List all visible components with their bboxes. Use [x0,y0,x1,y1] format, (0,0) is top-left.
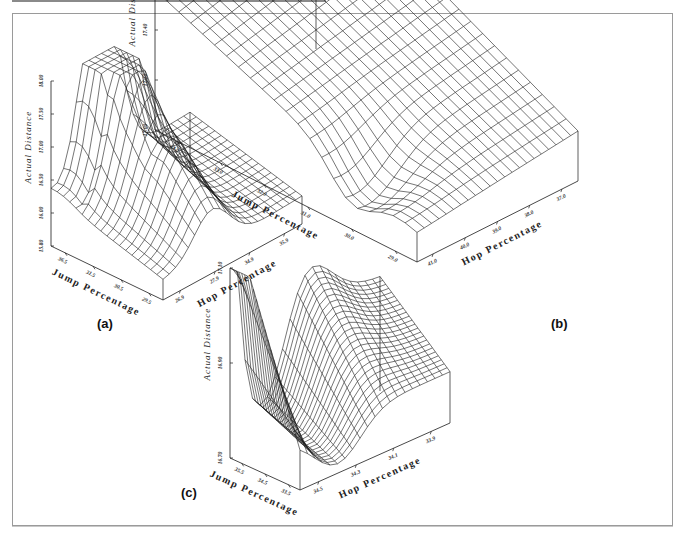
svg-text:39.0: 39.0 [490,225,502,235]
svg-text:26.9: 26.9 [173,294,185,304]
panel-label-b: (b) [551,316,568,331]
panel-label-c: (c) [181,485,197,500]
svg-text:16.90: 16.90 [217,357,223,370]
svg-text:31.0: 31.0 [299,209,311,219]
svg-text:33.5: 33.5 [280,487,292,497]
svg-text:41.0: 41.0 [426,257,438,267]
svg-text:31.5: 31.5 [84,268,96,278]
svg-text:30.5: 30.5 [112,282,124,292]
svg-text:18.00: 18.00 [38,75,44,88]
svg-text:Jump Percentage: Jump Percentage [51,266,143,318]
svg-text:34.9: 34.9 [242,256,254,266]
svg-text:34.3: 34.3 [349,468,361,478]
svg-text:Hop Percentage: Hop Percentage [337,454,423,500]
svg-text:35.9: 35.9 [277,237,289,247]
svg-text:36.5: 36.5 [56,255,68,265]
svg-text:Actual Distance: Actual Distance [127,0,137,47]
svg-text:37.0: 37.0 [554,192,566,202]
svg-text:40.0: 40.0 [458,241,470,251]
svg-text:35.5: 35.5 [233,465,245,475]
svg-text:27.9: 27.9 [208,275,220,285]
svg-text:34.5: 34.5 [311,485,323,495]
svg-text:17.40: 17.40 [142,24,148,37]
panel-label-a: (a) [97,316,113,331]
svg-text:33.0: 33.0 [212,165,224,175]
svg-text:15.80: 15.80 [38,240,44,253]
svg-text:17.00: 17.00 [38,141,44,154]
svg-text:Actual Distance: Actual Distance [23,111,33,185]
svg-text:17.20: 17.20 [142,74,148,87]
surface-plot-c: 16.7016.9017.10Actual Distance35.534.533… [202,262,450,518]
svg-text:29.5: 29.5 [140,295,152,305]
figure-canvas: 15.8016.0016.5017.0017.5018.00Actual Dis… [0,0,679,533]
svg-text:33.9: 33.9 [424,435,436,445]
svg-text:16.70: 16.70 [217,452,223,465]
svg-text:17.50: 17.50 [38,108,44,121]
svg-text:16.50: 16.50 [38,174,44,187]
svg-text:17.00: 17.00 [142,124,148,137]
svg-text:29.0: 29.0 [387,253,399,263]
svg-text:34.5: 34.5 [256,476,268,486]
svg-text:30.0: 30.0 [343,231,355,241]
svg-text:38.0: 38.0 [522,209,534,219]
svg-text:16.00: 16.00 [38,207,44,220]
svg-text:17.10: 17.10 [217,262,223,275]
svg-text:Actual Distance: Actual Distance [202,308,212,382]
svg-text:Hop Percentage: Hop Percentage [460,217,544,267]
svg-text:34.1: 34.1 [386,451,398,461]
